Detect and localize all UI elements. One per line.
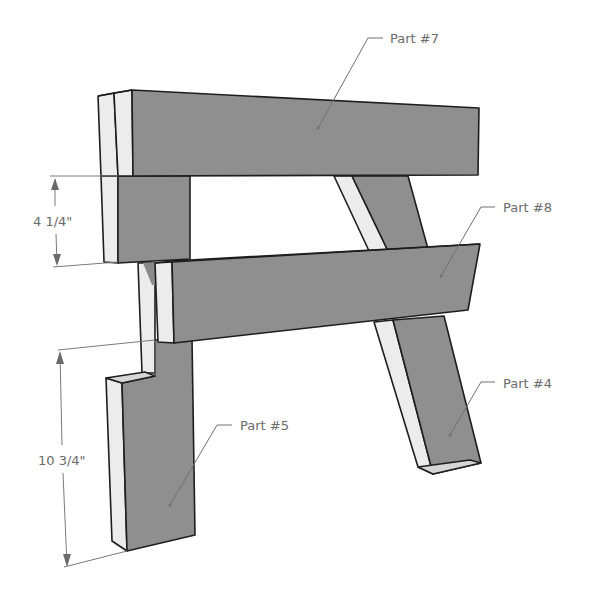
label-part-8: Part #8 (503, 200, 552, 215)
dim-upper-arrow-top (51, 178, 59, 190)
label-part-5: Part #5 (240, 418, 289, 433)
dim-lower-ext-bottom (64, 551, 127, 567)
dim-lower-arrow-top (56, 351, 64, 364)
dim-upper-ext-bottom (53, 262, 118, 267)
part-5-post (101, 176, 195, 551)
assembly-diagram: 4 1/4" 10 3/4" Part #7 Part #8 Part #4 P… (0, 0, 590, 598)
label-part-4: Part #4 (503, 376, 552, 391)
dim-upper-label: 4 1/4" (33, 214, 72, 229)
part-7-end-side-face-b (114, 90, 133, 176)
part-4-leg (334, 176, 481, 474)
part-7-board (98, 90, 479, 176)
dim-lower-label: 10 3/4" (38, 453, 86, 468)
dim-lower-line-a (60, 353, 62, 445)
part-5-lower-front-face (122, 338, 195, 551)
part-8-end-side-face (155, 261, 174, 343)
label-part-7: Part #7 (390, 31, 439, 46)
part-5-upper-front-face (118, 176, 190, 263)
part-5-upper-side-face (101, 176, 118, 263)
part-7-front-face (132, 90, 479, 176)
dim-lower-line-b (63, 473, 67, 565)
dim-upper-arrow-bottom (53, 254, 61, 266)
